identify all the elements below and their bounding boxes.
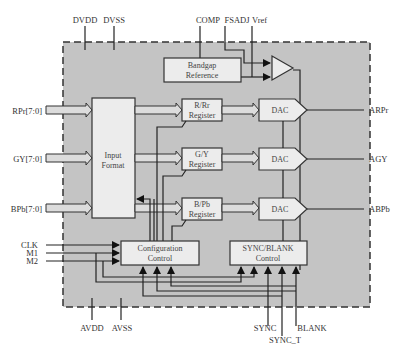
block-diagram: DVDD DVSS COMP FSADJ Vref Bandgap Refere… [0,0,402,358]
pin-fsadj-label: FSADJ [224,15,250,25]
svg-text:Format: Format [101,161,125,170]
svg-text:R/Rr: R/Rr [194,101,210,110]
configuration-control-block: Configuration Control [121,241,199,265]
svg-text:Reference: Reference [186,71,219,80]
svg-text:GY[7:0]: GY[7:0] [13,154,42,164]
svg-text:DVSS: DVSS [103,15,125,25]
svg-text:BPb[7:0]: BPb[7:0] [11,204,42,214]
svg-text:SYNC: SYNC [254,323,277,333]
svg-text:Configuration: Configuration [138,244,183,253]
svg-text:Input: Input [105,151,123,160]
input-format-block: Input Format [92,98,135,218]
pin-vref-label: Vref [252,15,267,25]
svg-text:DVDD: DVDD [73,15,98,25]
svg-text:Register: Register [189,210,216,219]
svg-text:Bandgap: Bandgap [188,61,216,70]
svg-text:SYNC/BLANK: SYNC/BLANK [242,244,293,253]
bandgap-reference-block: Bandgap Reference [164,58,241,82]
svg-text:M2: M2 [26,256,38,266]
svg-text:AGY: AGY [369,154,387,164]
svg-text:SYNC_T: SYNC_T [269,335,302,345]
register-b: B/Pb Register [182,198,222,220]
svg-text:ARPr: ARPr [369,105,389,115]
register-g: G/Y Register [182,148,222,170]
svg-text:Control: Control [256,254,281,263]
svg-text:Register: Register [189,111,216,120]
svg-text:Control: Control [148,254,173,263]
svg-text:BLANK: BLANK [297,323,327,333]
svg-text:Register: Register [189,160,216,169]
svg-text:G/Y: G/Y [195,150,209,159]
svg-text:DAC: DAC [272,205,289,214]
svg-text:B/Pb: B/Pb [194,200,210,209]
sync-blank-control-block: SYNC/BLANK Control [230,241,307,265]
register-r: R/Rr Register [182,99,222,121]
svg-text:ABPb: ABPb [369,204,390,214]
svg-text:DAC: DAC [272,155,289,164]
svg-text:AVDD: AVDD [80,323,103,333]
svg-text:AVSS: AVSS [112,323,133,333]
svg-text:RPr[7:0]: RPr[7:0] [12,106,42,116]
pin-comp-label: COMP [196,15,220,25]
svg-text:DAC: DAC [272,106,289,115]
